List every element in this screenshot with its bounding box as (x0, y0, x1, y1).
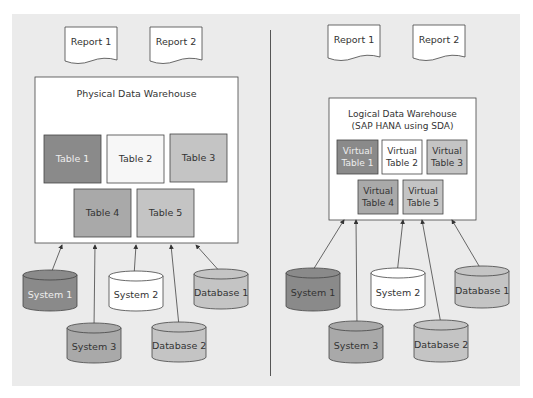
left-table-2: Table 2 (107, 153, 164, 164)
right-report-2: Report 2 (413, 34, 465, 45)
right-table-2: Virtual Table 2 (382, 145, 422, 169)
left-source-database-1: Database 1 (194, 287, 248, 298)
left-table-5: Table 5 (137, 207, 194, 218)
right-source-system-2: System 2 (371, 287, 425, 298)
logical-dw-title-line2: (SAP HANA using SDA) (329, 120, 476, 132)
left-source-system-2: System 2 (109, 289, 163, 300)
right-report-1: Report 1 (328, 34, 380, 45)
right-table-3: Virtual Table 3 (427, 145, 467, 169)
left-table-4: Table 4 (74, 207, 131, 218)
right-source-database-1: Database 1 (455, 285, 509, 296)
left-table-3: Table 3 (170, 152, 227, 163)
left-table-1: Table 1 (44, 153, 101, 164)
left-source-system-1: System 1 (23, 289, 77, 300)
right-table-1: Virtual Table 1 (337, 145, 378, 169)
left-report-1: Report 1 (65, 36, 117, 47)
left-report-2: Report 2 (150, 36, 202, 47)
right-source-database-2: Database 2 (414, 339, 468, 350)
left-source-database-2: Database 2 (152, 340, 206, 351)
left-source-system-3: System 3 (67, 341, 121, 352)
right-source-system-1: System 1 (286, 287, 340, 298)
logical-dw-title-line1: Logical Data Warehouse (329, 108, 476, 120)
logical-dw-title: Logical Data Warehouse (SAP HANA using S… (329, 108, 476, 132)
right-table-4: Virtual Table 4 (358, 185, 398, 209)
right-table-5: Virtual Table 5 (403, 185, 443, 209)
right-source-system-3: System 3 (329, 340, 383, 351)
physical-dw-title: Physical Data Warehouse (35, 88, 238, 99)
